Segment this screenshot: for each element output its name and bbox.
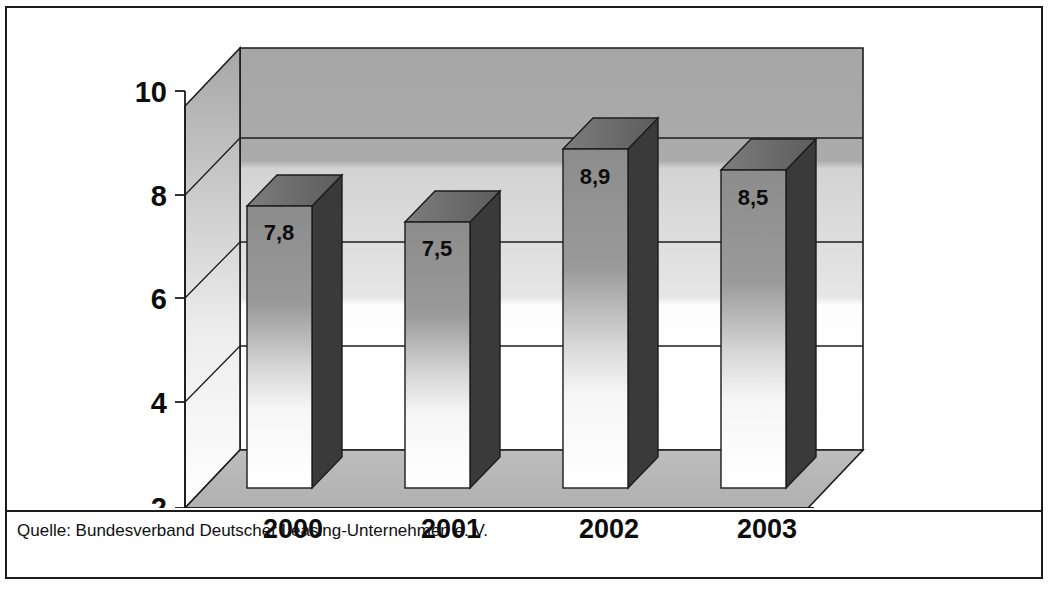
chart-left-wall [185, 48, 240, 508]
y-tick-label-6: 6 [151, 283, 167, 315]
y-tick-label-4: 4 [151, 387, 167, 419]
bar-2003[interactable]: 8,5 [721, 139, 816, 488]
bar-2001-side [470, 191, 500, 488]
figure-frame: 7,8 7,5 8,9 8,5 [5, 6, 1043, 579]
bar-2003-side [786, 139, 816, 488]
bar-chart-plot: 7,8 7,5 8,9 8,5 [7, 8, 1041, 508]
bar-2001[interactable]: 7,5 [405, 191, 500, 488]
y-tick-label-10: 10 [135, 76, 167, 108]
bar-2000-side [312, 175, 342, 488]
bar-2003-front [721, 170, 786, 488]
bar-2002-front [563, 149, 628, 488]
source-note: Quelle: Bundesverband Deutscher Leasing-… [17, 517, 1017, 545]
bar-2003-value-label: 8,5 [738, 185, 769, 210]
y-tick-label-2: 2 [151, 492, 167, 508]
bar-2002-side [628, 118, 658, 488]
y-axis-ticks [175, 91, 185, 508]
bar-2001-front [405, 222, 470, 488]
y-tick-label-8: 8 [151, 180, 167, 212]
y-axis-tick-labels: 2 4 6 8 10 [135, 76, 167, 508]
bar-2000-value-label: 7,8 [264, 220, 295, 245]
bar-2002[interactable]: 8,9 [563, 118, 658, 488]
bar-2000[interactable]: 7,8 [247, 175, 342, 488]
bar-2000-front [247, 206, 312, 488]
source-divider [7, 510, 1041, 512]
bar-2001-value-label: 7,5 [422, 236, 453, 261]
chart-page: 7,8 7,5 8,9 8,5 [0, 0, 1052, 592]
bar-2002-value-label: 8,9 [580, 164, 611, 189]
